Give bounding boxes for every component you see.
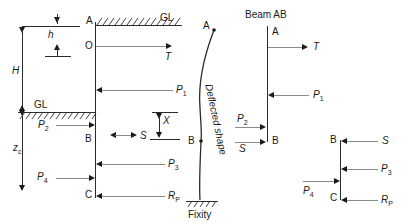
ground-hatch-left [18,112,96,120]
fixity-label: Fixity [188,210,211,220]
zc-arrow-bottom-head [19,185,25,191]
force-label-S-beam-bc: S [382,136,389,146]
point-label-b-deflected: B [188,136,195,146]
force-arrowhead-P3-main [96,161,102,167]
dimension-label-zc: zc [13,143,22,157]
force-arrowhead-P1-beam-ab [268,92,274,98]
fixity-hatch [186,201,218,208]
point-label-b-beam-bc: B [330,135,337,145]
force-arrowhead-P2-main [89,122,95,128]
force-label-S-main: S [140,131,147,141]
beam-ab-title: Beam AB [245,10,287,20]
force-arrowhead-Rp-main [96,193,102,199]
x-arrow-bottom-head [156,132,162,138]
force-line-T-main [96,46,168,47]
point-label-c-beam-bc: C [330,193,337,203]
force-arrowhead-P1-main [96,87,102,93]
force-label-Rp-beam-bc: RP [381,195,393,209]
force-line-T-beam-ab [268,47,304,48]
ground-hatch-top [96,18,184,26]
force-line-P2-main [56,125,90,126]
force-arrowhead-S-right-main [131,132,137,138]
x-dimension-lower-tick [150,139,180,140]
force-label-T-main: T [165,52,171,62]
force-line-P3-beam-bc [346,169,378,170]
force-label-T-beam-ab: T [313,42,319,52]
force-label-P3-beam-bc: P3 [381,164,392,178]
point-label-b-main: B [85,134,92,144]
H-dimension-line [22,30,23,108]
force-label-P4-beam-bc: P4 [303,186,314,200]
force-arrowhead-T-beam-ab [302,44,308,50]
force-line-P3-main [101,164,165,165]
point-label-b-beam-ab: B [272,136,279,146]
h-lower-reference-line [45,56,71,57]
force-line-S-beam-bc [346,141,378,142]
top-reference-line [22,26,80,27]
force-arrowhead-P4-beam-bc [334,178,340,184]
force-arrowhead-S-beam-ab [260,139,266,145]
force-line-Rp-main [101,196,165,197]
force-label-P2-main: P2 [38,120,49,134]
dimension-label-h: h [48,30,54,40]
point-label-a-deflected: A [203,21,210,31]
force-label-P2-beam-ab: P2 [237,114,248,128]
main-structure-line [95,22,96,198]
force-label-P1-beam-ab: P1 [313,90,324,104]
force-label-P1-main: P1 [176,85,187,99]
force-arrowhead-S-beam-bc [341,138,347,144]
force-line-P1-beam-ab [273,95,309,96]
force-arrowhead-T-main [166,43,172,49]
force-arrowhead-Rp-beam-bc [341,197,347,203]
beam-ab-member-line [267,26,268,142]
force-arrowhead-P2-beam-ab [260,124,266,130]
force-line-P4-main [56,178,90,179]
dimension-label-X: X [163,116,170,126]
force-label-P4-main: P4 [37,172,48,186]
point-label-a-beam-ab: A [272,27,279,37]
force-line-Rp-beam-bc [346,200,378,201]
force-line-P4-beam-bc [303,181,334,182]
engineering-diagram: h H GL zc A O B C GL [0,0,410,224]
h-arrow-top-stem [57,14,58,24]
zc-dimension-line [22,113,23,185]
force-label-P3-main: P3 [168,159,179,173]
force-label-S-beam-ab: S [239,144,246,154]
force-arrowhead-P3-beam-bc [341,166,347,172]
point-label-a-main: A [86,16,93,26]
point-label-c-main: C [85,190,92,200]
force-line-P1-main [101,90,173,91]
force-arrowhead-P4-main [89,175,95,181]
point-label-o-main: O [85,41,93,51]
ground-line-label-left: GL [34,100,47,110]
force-label-Rp-main: RP [168,191,180,205]
dimension-label-H: H [12,66,19,76]
